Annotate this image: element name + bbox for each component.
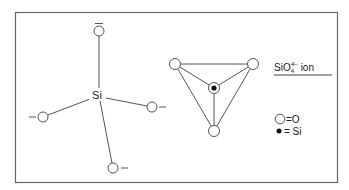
oxygen-atom-bottom (108, 163, 118, 173)
si-label: Si (92, 89, 102, 101)
edge-left (175, 64, 214, 131)
silicon-atom-dot (211, 85, 216, 90)
ion-title: SiO44− ion (274, 61, 314, 74)
oxygen-atom-tetra-bottom (209, 126, 220, 137)
legend-oxygen-label: =O (286, 114, 300, 125)
tetrahedron (170, 59, 259, 137)
figure-frame (16, 13, 338, 183)
edge-right (214, 64, 253, 131)
bond-right (106, 98, 147, 106)
bond-bottom (100, 101, 112, 163)
legend: =O = Si (275, 114, 301, 137)
silicate-diagram: Si SiO44− ion =O = Si (0, 0, 349, 190)
oxygen-atom-top (94, 26, 104, 36)
oxygen-atom-tetra-top-right (248, 59, 259, 70)
legend-silicon-icon (277, 129, 282, 134)
oxygen-atom-left (38, 112, 48, 122)
edge-center-right (214, 64, 253, 88)
oxygen-atom-tetra-top-left (170, 59, 181, 70)
legend-oxygen-icon (275, 114, 285, 124)
bond-left (48, 99, 90, 115)
oxygen-atom-right (147, 102, 157, 112)
legend-silicon-label: = Si (284, 126, 302, 137)
ion-title-subscript: 4 (291, 68, 295, 74)
edge-center-left (175, 64, 214, 88)
